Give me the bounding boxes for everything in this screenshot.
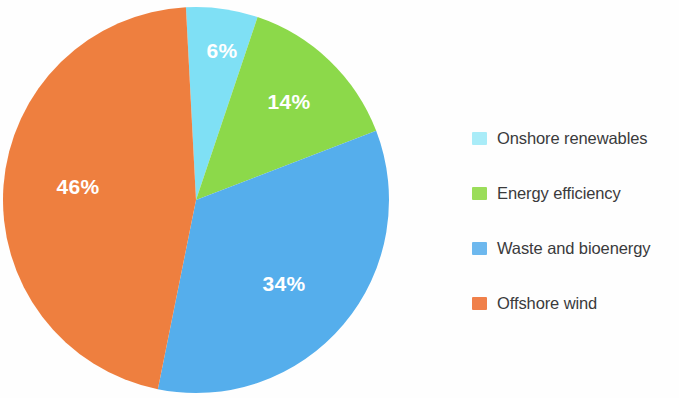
pie-slice-value-label-onshore-renewables: 6%	[207, 39, 238, 62]
pie-slice-value-label-offshore-wind: 46%	[57, 175, 100, 198]
legend-swatch-icon-offshore-wind	[472, 297, 487, 310]
pie-chart-figure: 6%14%34%46% Onshore renewablesEnergy eff…	[0, 0, 679, 398]
legend-item-onshore-renewables[interactable]: Onshore renewables	[472, 128, 677, 148]
legend-item-energy-efficiency[interactable]: Energy efficiency	[472, 183, 677, 203]
legend-item-label: Onshore renewables	[497, 129, 647, 148]
pie-slice-offshore-wind[interactable]	[3, 7, 196, 389]
legend-swatch-icon-energy-efficiency	[472, 187, 487, 200]
legend-item-label: Waste and bioenergy	[497, 239, 650, 258]
pie-slice-value-label-waste-and-bioenergy: 34%	[263, 272, 306, 295]
pie-chart-svg: 6%14%34%46%	[0, 0, 440, 398]
legend-swatch-icon-waste-and-bioenergy	[472, 242, 487, 255]
legend-item-waste-and-bioenergy[interactable]: Waste and bioenergy	[472, 238, 677, 258]
legend-swatch-icon-onshore-renewables	[472, 132, 487, 145]
pie-chart-plot-area: 6%14%34%46%	[0, 0, 440, 398]
pie-slice-value-label-energy-efficiency: 14%	[268, 90, 311, 113]
pie-slice-group	[3, 7, 389, 393]
chart-legend: Onshore renewablesEnergy efficiencyWaste…	[472, 128, 677, 313]
legend-item-label: Energy efficiency	[497, 184, 621, 203]
legend-item-offshore-wind[interactable]: Offshore wind	[472, 293, 677, 313]
legend-item-label: Offshore wind	[497, 294, 597, 313]
